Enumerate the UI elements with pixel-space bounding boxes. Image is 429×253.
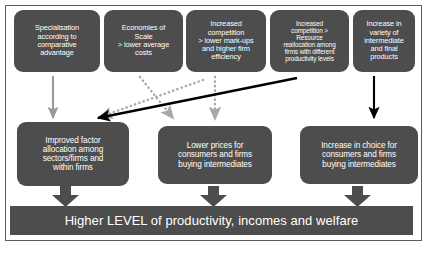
outcome-banner-label: Higher LEVEL of productivity, incomes an… [65,213,359,228]
node-increase-in-choice[interactable]: Increase in choice for consumers and fir… [300,126,418,184]
node-economies-of-scale-label: Economies of Scale > lower average costs [118,24,169,57]
node-specialisation[interactable]: Specialisation according to comparative … [14,10,100,72]
node-increase-in-choice-label: Increase in choice for consumers and fir… [321,141,397,169]
node-improved-factor-allocation[interactable]: Improved factor allocation among sectors… [17,122,129,186]
node-improved-factor-allocation-label: Improved factor allocation among sectors… [43,136,104,173]
outcome-banner[interactable]: Higher LEVEL of productivity, incomes an… [10,206,413,235]
node-increased-competition-markups[interactable]: Increased competition > lower mark-ups a… [186,10,266,72]
node-specialisation-label: Specialisation according to comparative … [35,24,79,57]
node-increased-competition-markups-label: Increased competition > lower mark-ups a… [198,20,253,61]
node-increased-competition-reallocation-label: Increased competition > Resource realloc… [283,20,335,62]
node-variety-of-products[interactable]: Increase in variety of intermediate and … [353,10,415,72]
diagram-canvas: Specialisation according to comparative … [0,0,429,253]
node-economies-of-scale[interactable]: Economies of Scale > lower average costs [104,10,183,72]
node-variety-of-products-label: Increase in variety of intermediate and … [364,20,403,61]
node-lower-prices-label: Lower prices for consumers and firms buy… [178,141,252,169]
node-increased-competition-reallocation[interactable]: Increased competition > Resource realloc… [270,10,349,72]
node-lower-prices[interactable]: Lower prices for consumers and firms buy… [158,126,272,184]
